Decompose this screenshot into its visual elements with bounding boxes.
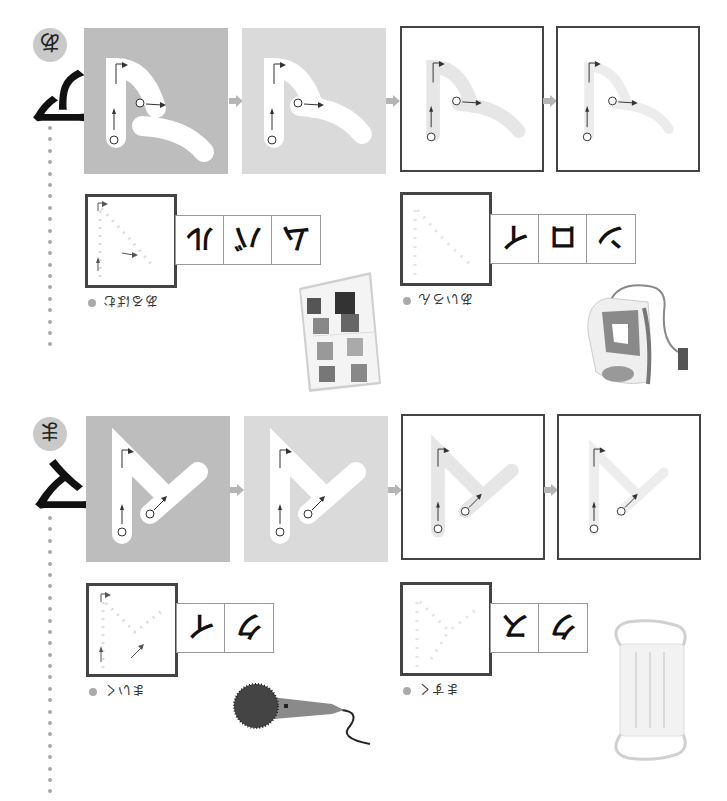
hiragana-badge-text: あ [39, 29, 61, 61]
arrow-right-icon [230, 484, 244, 496]
katakana-cell: ン [587, 215, 635, 263]
microphone-illustration [232, 678, 374, 748]
arrow-right-icon [544, 484, 558, 496]
katakana-ma-stroke-guide [86, 416, 230, 562]
bullet-icon [89, 688, 97, 696]
word-label-mic: まいく [89, 682, 145, 701]
bullet-icon [88, 299, 96, 307]
arrow-right-icon [229, 95, 243, 107]
word-label-album: あるばむ [88, 293, 158, 312]
practice-box-mic[interactable] [86, 583, 178, 677]
bullet-icon [403, 297, 411, 305]
katakana-cell: ム [272, 216, 320, 264]
trace-panel-step-3[interactable] [400, 26, 544, 172]
section-katakana-a: あ ア [0, 0, 727, 400]
dotted-trace-guide [403, 195, 489, 283]
iron-illustration [578, 272, 698, 392]
katakana-ma-stroke-guide [244, 416, 388, 562]
katakana-cells-mic: イ ク [176, 603, 274, 653]
katakana-ma-trace-guide [559, 416, 699, 558]
dotted-trace-guide [88, 197, 174, 285]
arrow-right-icon [388, 484, 402, 496]
katakana-cell: ク [539, 604, 587, 652]
practice-box-album[interactable] [85, 194, 177, 288]
katakana-a-stroke-guide [242, 28, 386, 174]
arrow-right-icon [543, 95, 557, 107]
katakana-ma-trace-guide [403, 416, 543, 558]
katakana-cell: ス [491, 604, 539, 652]
stroke-panel-step-1 [86, 416, 230, 562]
photo-album-illustration [295, 266, 383, 394]
dotted-trace-guide [89, 586, 175, 674]
katakana-cell: ロ [539, 215, 587, 263]
dotted-guide-line [48, 126, 52, 354]
katakana-cell: バ [224, 216, 272, 264]
katakana-cell: イ [177, 604, 225, 652]
dotted-guide-line [48, 516, 52, 801]
katakana-cell: ル [176, 216, 224, 264]
practice-box-iron[interactable] [400, 192, 492, 286]
word-label-mask: ますく [403, 681, 459, 700]
trace-panel-step-3[interactable] [401, 414, 545, 560]
face-mask-illustration [604, 614, 692, 764]
hiragana-badge-text: ま [39, 418, 61, 450]
katakana-cell: イ [491, 215, 539, 263]
katakana-cells-iron: イ ロ ン [490, 214, 636, 264]
practice-box-mask[interactable] [400, 582, 492, 676]
section-katakana-ma: ま マ [0, 400, 727, 801]
arrow-right-icon [386, 95, 400, 107]
stroke-panel-step-2 [242, 28, 386, 174]
trace-panel-step-4[interactable] [556, 26, 700, 172]
trace-panel-step-4[interactable] [557, 414, 701, 560]
word-label-iron: あいろん [403, 291, 473, 310]
katakana-a-stroke-guide [84, 28, 228, 174]
katakana-a-trace-guide [402, 28, 542, 170]
hiragana-badge: あ [33, 28, 67, 62]
dotted-trace-guide [403, 585, 489, 673]
katakana-cell: ク [225, 604, 273, 652]
stroke-panel-step-2 [244, 416, 388, 562]
hiragana-badge: ま [33, 417, 67, 451]
katakana-cells-mask: ス ク [490, 603, 588, 653]
katakana-a-trace-guide [558, 28, 698, 170]
bullet-icon [403, 687, 411, 695]
katakana-cells-album: ル バ ム [175, 215, 321, 265]
stroke-panel-step-1 [84, 28, 228, 174]
